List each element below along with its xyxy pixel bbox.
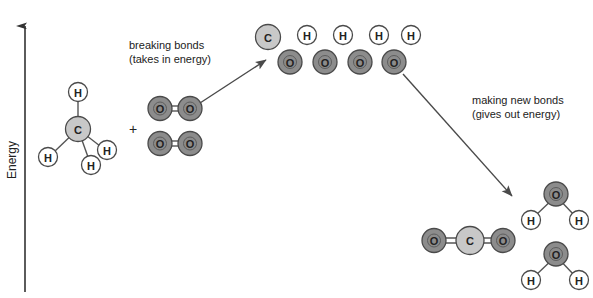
atom-hydrogen-free-1: H xyxy=(298,26,317,45)
annotation-breaking-bonds: breaking bonds (takes in energy) xyxy=(129,39,211,65)
atom-oxygen-right: O xyxy=(178,97,202,121)
atom-label-oxygen: O xyxy=(321,57,330,69)
molecule-oxygen-2: O O xyxy=(148,132,202,156)
energy-axis-label: Energy xyxy=(5,141,19,179)
atom-oxygen-free-1: O xyxy=(278,50,302,74)
atom-label-hydrogen: H xyxy=(303,30,311,42)
energy-level-diagram: Energy C H H H xyxy=(0,0,593,298)
atom-label-carbon: C xyxy=(74,124,82,136)
energy-axis: Energy xyxy=(5,26,25,292)
atom-carbon-methane: C xyxy=(66,117,91,142)
atom-oxygen-water: O xyxy=(544,242,568,266)
atom-hydrogen-methane-left: H xyxy=(39,148,58,167)
annotation-making-bonds: making new bonds (gives out energy) xyxy=(472,94,564,120)
breaking-bonds-line1: breaking bonds xyxy=(129,39,205,51)
atom-label-oxygen: O xyxy=(186,138,195,150)
atom-label-oxygen: O xyxy=(286,57,295,69)
atom-label-hydrogen: H xyxy=(74,87,82,99)
molecule-carbon-dioxide: O C O xyxy=(422,227,515,255)
atom-label-oxygen: O xyxy=(552,249,561,261)
atom-hydrogen-free-4: H xyxy=(402,26,421,45)
atom-hydrogen-methane-top: H xyxy=(69,83,88,102)
atom-carbon-co2: C xyxy=(456,227,484,255)
atom-hydrogen-water-right: H xyxy=(570,271,589,290)
atom-oxygen-left: O xyxy=(148,132,172,156)
atom-oxygen-water: O xyxy=(544,182,568,206)
atom-label-oxygen: O xyxy=(356,57,365,69)
atom-label-oxygen: O xyxy=(430,235,439,247)
atom-label-hydrogen: H xyxy=(527,215,535,227)
breaking-bonds-line2: (takes in energy) xyxy=(129,53,211,65)
transition-state-atoms: C H H H H O xyxy=(256,25,421,75)
atom-label-hydrogen: H xyxy=(87,160,95,172)
atom-hydrogen-water-left: H xyxy=(522,271,541,290)
plus-operator: + xyxy=(129,121,137,137)
atom-label-oxygen: O xyxy=(552,189,561,201)
atom-hydrogen-free-3: H xyxy=(370,26,389,45)
molecule-water-1: O H H xyxy=(522,182,589,230)
making-bonds-arrow xyxy=(403,74,512,196)
molecule-water-2: O H H xyxy=(522,242,589,290)
atom-label-hydrogen: H xyxy=(575,275,583,287)
atom-label-hydrogen: H xyxy=(527,275,535,287)
making-bonds-line2: (gives out energy) xyxy=(472,108,560,120)
atom-oxygen-left: O xyxy=(148,97,172,121)
diagram-canvas: Energy C H H H xyxy=(0,0,593,298)
atom-label-oxygen: O xyxy=(390,57,399,69)
atom-label-hydrogen: H xyxy=(44,152,52,164)
atom-label-hydrogen: H xyxy=(575,215,583,227)
atom-label-oxygen: O xyxy=(186,103,195,115)
atom-hydrogen-methane-right: H xyxy=(98,141,117,160)
atom-hydrogen-water-left: H xyxy=(522,211,541,230)
atom-label-oxygen: O xyxy=(156,138,165,150)
atom-label-oxygen: O xyxy=(156,103,165,115)
atom-oxygen-free-3: O xyxy=(348,50,372,74)
atom-label-carbon: C xyxy=(466,235,474,247)
atom-label-oxygen: O xyxy=(499,235,508,247)
making-bonds-line1: making new bonds xyxy=(472,94,564,106)
atom-oxygen-co2-left: O xyxy=(422,229,446,253)
atom-hydrogen-methane-bottom: H xyxy=(82,156,101,175)
atom-carbon-free: C xyxy=(256,25,281,50)
molecule-oxygen-1: O O xyxy=(148,97,202,121)
atom-oxygen-free-4: O xyxy=(382,50,406,74)
atom-oxygen-co2-right: O xyxy=(491,229,515,253)
atom-label-carbon: C xyxy=(264,32,272,44)
atom-hydrogen-free-2: H xyxy=(334,26,353,45)
atom-oxygen-free-2: O xyxy=(313,50,337,74)
atom-hydrogen-water-right: H xyxy=(570,211,589,230)
atom-label-hydrogen: H xyxy=(339,30,347,42)
breaking-bonds-arrow xyxy=(200,60,266,103)
atom-label-hydrogen: H xyxy=(407,30,415,42)
atom-label-hydrogen: H xyxy=(103,145,111,157)
atom-oxygen-right: O xyxy=(178,132,202,156)
molecule-methane: C H H H H xyxy=(39,83,117,175)
atom-label-hydrogen: H xyxy=(375,30,383,42)
